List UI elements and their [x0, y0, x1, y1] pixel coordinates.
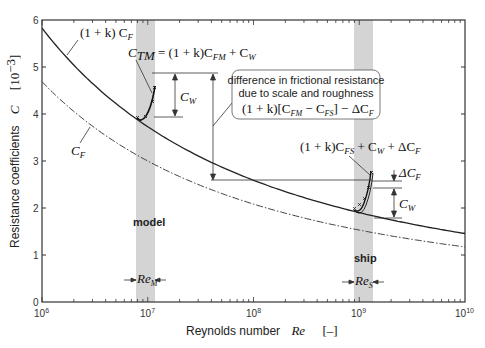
ship-cw-label: CW — [399, 196, 417, 213]
ctm-equation: CTM = (1 + k)CFM + CW — [128, 45, 257, 63]
svg-text:1010: 1010 — [455, 307, 474, 319]
svg-text:6: 6 — [33, 15, 39, 26]
svg-text:1: 1 — [33, 250, 39, 261]
svg-text:109: 109 — [351, 307, 366, 319]
svg-text:108: 108 — [246, 307, 261, 319]
ship-dcf-label: ΔCF — [398, 165, 421, 182]
lower-curve-label: CF — [71, 143, 86, 160]
svg-text:4: 4 — [33, 109, 39, 120]
callout-equation: (1 + k)[CFM − CFS] − ΔCF — [242, 101, 374, 118]
svg-text:2: 2 — [33, 203, 39, 214]
y-axis-title: Resistance coefficients C [10−3] — [3, 55, 22, 248]
ship-label: ship — [354, 252, 377, 264]
upper-curve-label: (1 + k) CF — [80, 25, 133, 42]
rem-label: ReM — [136, 271, 159, 288]
lower-curve-leader — [80, 127, 90, 143]
resistance-chart: 0 1 2 3 4 5 6 106 107 108 109 1010 Reyno… — [0, 0, 485, 348]
svg-text:107: 107 — [140, 307, 155, 319]
x-axis-ticks — [42, 20, 460, 302]
ship-equation: (1 + k)CFS + CW + ΔCF — [300, 139, 421, 156]
svg-text:106: 106 — [34, 307, 49, 319]
svg-text:5: 5 — [33, 62, 39, 73]
callout-line-2: due to scale and roughness — [238, 87, 374, 99]
callout-line-1: difference in frictional resistance — [228, 74, 385, 86]
x-axis-title: Reynolds number Re [–] — [186, 323, 338, 338]
y-axis-tick-labels: 0 1 2 3 4 5 6 — [33, 15, 39, 308]
upper-curve-leader — [67, 40, 78, 55]
plot-frame — [42, 20, 465, 302]
x-axis-tick-labels: 106 107 108 109 1010 — [34, 307, 474, 319]
svg-text:0: 0 — [33, 297, 39, 308]
model-label: model — [133, 216, 165, 228]
model-cw-label: CW — [180, 89, 198, 106]
ship-dimensions — [372, 170, 402, 218]
svg-text:3: 3 — [33, 156, 39, 167]
